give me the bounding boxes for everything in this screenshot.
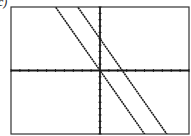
graph-screen — [0, 0, 191, 136]
